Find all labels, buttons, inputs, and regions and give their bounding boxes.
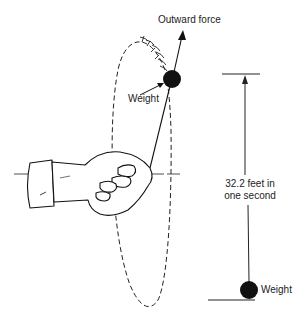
distance-label-line1: 32.2 feet in [224,178,276,190]
bottom-weight-ball [240,281,258,299]
distance-label-line2: one second [224,190,276,202]
weight-bottom-label: Weight [261,284,292,296]
weight-top-label: Weight [128,93,159,105]
diagram-canvas [0,0,305,319]
top-weight-ball [163,70,181,88]
distance-arrowhead [242,75,248,84]
distance-label: 32.2 feet in one second [224,178,276,202]
outward-force-label: Outward force [158,14,221,26]
outward-force-arrowhead [178,30,186,40]
hand-illustration [28,152,153,216]
outward-force-arrow [174,36,182,72]
distance-arrow-lower [248,205,249,282]
